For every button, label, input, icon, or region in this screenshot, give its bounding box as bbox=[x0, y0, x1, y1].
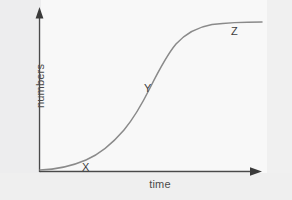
curve-annotation-y: Y bbox=[144, 82, 151, 94]
growth-curve-figure: numbers time X Y Z bbox=[0, 0, 292, 200]
growth-curve-path bbox=[40, 22, 262, 170]
x-axis-label: time bbox=[130, 178, 190, 190]
curve-annotation-z: Z bbox=[231, 25, 238, 37]
curve-annotation-x: X bbox=[82, 161, 89, 173]
y-axis-label: numbers bbox=[34, 56, 46, 116]
x-axis-arrow-icon bbox=[250, 167, 262, 175]
y-axis-arrow-icon bbox=[36, 7, 44, 19]
